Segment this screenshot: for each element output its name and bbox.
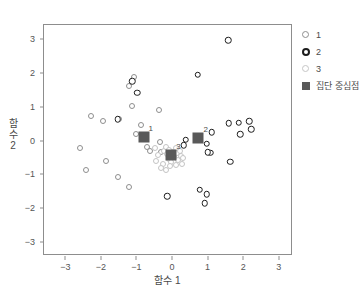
x-tick	[136, 256, 137, 260]
data-point-cluster-2	[115, 116, 122, 123]
y-tick	[40, 38, 44, 39]
y-tick	[40, 72, 44, 73]
data-point-cluster-1	[129, 103, 135, 109]
data-point-cluster-1	[126, 184, 132, 190]
data-point-cluster-2	[227, 158, 234, 165]
data-point-cluster-1	[103, 158, 109, 164]
x-tick-label: −2	[96, 262, 106, 272]
data-point-cluster-2	[205, 149, 212, 156]
data-point-cluster-2	[203, 140, 210, 147]
y-tick-label: −1	[25, 169, 35, 179]
x-tick-label: 1	[205, 262, 210, 272]
legend-item-centroid[interactable]: 집단 중심점	[299, 78, 363, 93]
data-point-cluster-2	[208, 129, 215, 136]
circle-light-icon	[299, 31, 312, 38]
x-tick-label: 3	[276, 262, 281, 272]
y-tick-label: 1	[30, 102, 35, 112]
y-axis-label: 함 수 2	[6, 118, 20, 151]
x-tick	[65, 256, 66, 260]
data-point-cluster-1	[115, 174, 121, 180]
legend-label-1: 1	[316, 30, 321, 40]
data-point-cluster-3	[152, 145, 158, 151]
x-tick	[207, 256, 208, 260]
y-tick	[40, 106, 44, 107]
legend-label-centroid: 집단 중심점	[316, 79, 359, 92]
y-tick-label: 0	[30, 136, 35, 146]
data-point-cluster-1	[156, 107, 162, 113]
data-point-cluster-2	[202, 200, 209, 207]
data-point-cluster-1	[83, 167, 89, 173]
centroid-label-3: 3	[176, 143, 180, 151]
plot-area: 123 −3−2−101233210−1−2−3	[43, 24, 292, 255]
legend-item-2[interactable]: 2	[299, 44, 363, 59]
data-point-cluster-1	[88, 113, 94, 119]
centroid-marker-3	[166, 150, 177, 161]
y-tick	[40, 242, 44, 243]
x-tick-label: 0	[170, 262, 175, 272]
legend-item-3[interactable]: 3	[299, 61, 363, 76]
circle-pale-icon	[299, 65, 312, 72]
y-axis-label-char-3: 2	[6, 140, 20, 151]
x-tick	[172, 256, 173, 260]
x-axis-label: 함수 1	[43, 272, 292, 287]
data-point-cluster-3	[179, 161, 185, 167]
data-point-cluster-1	[138, 122, 144, 128]
data-point-cluster-3	[180, 155, 186, 161]
data-point-cluster-3	[173, 162, 179, 168]
data-point-cluster-2	[237, 131, 244, 138]
circle-dark-icon	[299, 48, 312, 56]
data-point-cluster-2	[134, 90, 141, 97]
data-point-cluster-2	[129, 78, 136, 85]
y-tick	[40, 174, 44, 175]
y-tick	[40, 140, 44, 141]
y-tick-label: 3	[30, 34, 35, 44]
legend-label-3: 3	[316, 64, 321, 74]
y-axis-label-char-1: 함	[6, 118, 20, 129]
data-points-layer: 123	[44, 25, 291, 254]
legend: 1 2 3 집단 중심점	[299, 27, 363, 95]
square-dark-icon	[299, 82, 312, 90]
data-point-cluster-2	[246, 118, 253, 125]
scatter-plot-figure: 함 수 2 123 −3−2−101233210−1−2−3 함수 1 1 2 …	[0, 0, 364, 295]
x-tick-label: −3	[60, 262, 70, 272]
x-tick	[243, 256, 244, 260]
x-tick-label: −1	[131, 262, 141, 272]
legend-item-1[interactable]: 1	[299, 27, 363, 42]
data-point-cluster-2	[164, 193, 171, 200]
data-point-cluster-2	[203, 191, 210, 198]
data-point-cluster-3	[153, 158, 159, 164]
x-tick	[100, 256, 101, 260]
data-point-cluster-1	[77, 145, 83, 151]
y-tick-label: 2	[30, 68, 35, 78]
data-point-cluster-2	[194, 72, 201, 79]
y-tick-label: −3	[25, 237, 35, 247]
data-point-cluster-2	[226, 120, 233, 127]
data-point-cluster-2	[248, 126, 255, 133]
centroid-marker-1	[138, 131, 149, 142]
data-point-cluster-3	[167, 163, 173, 169]
y-tick	[40, 208, 44, 209]
x-tick-label: 2	[241, 262, 246, 272]
y-axis-label-char-2: 수	[6, 129, 20, 140]
y-tick-label: −2	[25, 203, 35, 213]
centroid-label-2: 2	[203, 126, 207, 134]
data-point-cluster-2	[225, 37, 232, 44]
centroid-marker-2	[193, 133, 204, 144]
centroid-label-1: 1	[149, 125, 153, 133]
data-point-cluster-2	[235, 120, 242, 127]
data-point-cluster-1	[100, 118, 106, 124]
data-point-cluster-2	[197, 187, 204, 194]
x-tick	[278, 256, 279, 260]
legend-label-2: 2	[316, 47, 321, 57]
